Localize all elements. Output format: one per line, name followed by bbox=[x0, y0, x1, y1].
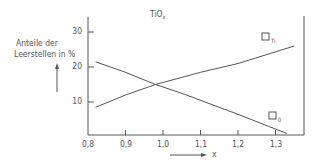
y-tick-label: 30 bbox=[62, 26, 82, 36]
x-tick-label: 0,9 bbox=[115, 139, 135, 149]
y-tick-label: 20 bbox=[62, 61, 82, 71]
chart-title-text: TiO bbox=[150, 9, 163, 19]
legend-box-ti-icon bbox=[262, 33, 269, 40]
series-o-line bbox=[96, 62, 287, 134]
y-ticks bbox=[88, 32, 94, 102]
legend-ti-sub: Ti bbox=[271, 37, 275, 44]
y-axis-label-line2: Leerstellen in % bbox=[14, 49, 75, 59]
y-axis-label-line1: Anteile der bbox=[16, 38, 58, 48]
x-ticks bbox=[126, 130, 276, 135]
x-label-arrow bbox=[170, 153, 207, 157]
legend-box-o-icon bbox=[269, 112, 276, 119]
y-tick-label: 10 bbox=[62, 96, 82, 106]
legend-o-sub: 0 bbox=[278, 116, 281, 123]
chart-title: TiOx bbox=[150, 9, 166, 20]
x-axis-label: x bbox=[212, 149, 217, 159]
x-tick-label: 1,1 bbox=[190, 139, 210, 149]
chart-title-subscript: x bbox=[163, 13, 166, 20]
y-label-arrow bbox=[55, 63, 59, 92]
x-tick-label: 1,0 bbox=[153, 139, 173, 149]
series-lines bbox=[96, 46, 295, 134]
axes bbox=[88, 16, 304, 135]
x-tick-label: 0,8 bbox=[78, 139, 98, 149]
x-tick-label: 1,3 bbox=[265, 139, 285, 149]
x-tick-label: 1,2 bbox=[228, 139, 248, 149]
